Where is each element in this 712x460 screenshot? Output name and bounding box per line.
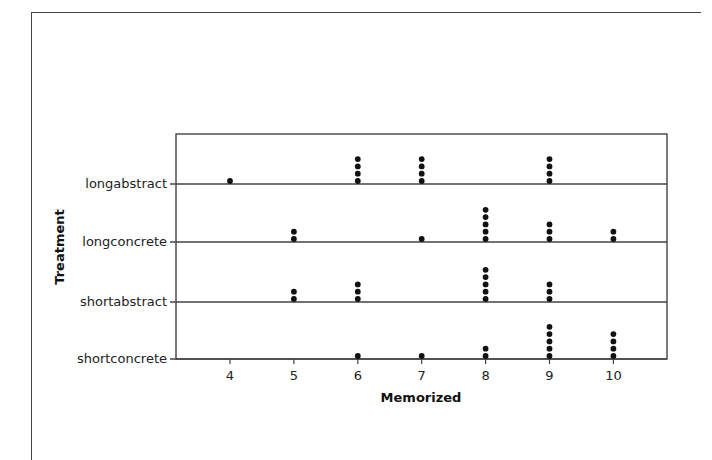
y-axis-category-labels: longabstractlongconcreteshortabstractsho… [77,176,167,366]
data-point [611,331,617,337]
data-point [355,156,361,162]
data-point [483,289,489,295]
data-point [547,289,553,295]
x-axis-ticks: 45678910 [226,359,622,383]
data-point [419,236,425,242]
data-point [355,178,361,184]
data-point [291,229,297,235]
data-point [291,236,297,242]
data-point [483,207,489,213]
x-tick-label: 10 [605,368,622,383]
data-point [355,282,361,288]
data-point [483,267,489,273]
data-point [547,164,553,170]
dot-plot: longabstractlongconcreteshortabstractsho… [0,0,712,460]
data-point [611,339,617,345]
x-tick-label: 4 [226,368,234,383]
data-point [611,229,617,235]
category-label-shortabstract: shortabstract [80,294,167,309]
category-label-shortconcrete: shortconcrete [77,351,167,366]
data-point [547,236,553,242]
category-label-longabstract: longabstract [85,176,167,191]
data-point [483,296,489,302]
x-tick-label: 5 [290,368,298,383]
data-point [355,164,361,170]
category-label-longconcrete: longconcrete [82,234,167,249]
x-tick-label: 7 [418,368,426,383]
data-point [611,346,617,352]
plot-area [170,134,667,359]
x-tick-label: 8 [481,368,489,383]
data-point [611,353,617,359]
data-point [547,346,553,352]
data-point [355,289,361,295]
data-point [547,178,553,184]
data-point [483,274,489,280]
data-point [547,171,553,177]
data-point [483,236,489,242]
data-point [419,178,425,184]
data-point [483,353,489,359]
data-point [547,156,553,162]
data-point [227,178,233,184]
data-point [483,282,489,288]
x-axis-title: Memorized [381,390,462,405]
data-point [547,339,553,345]
data-point [483,214,489,220]
data-point [547,324,553,330]
data-point [355,353,361,359]
data-point [547,296,553,302]
data-point [355,171,361,177]
data-point [611,236,617,242]
data-point [547,331,553,337]
data-point [419,156,425,162]
data-point [419,164,425,170]
x-tick-label: 6 [354,368,362,383]
data-point [547,353,553,359]
data-point [419,171,425,177]
data-point [547,222,553,228]
data-points [227,156,616,359]
data-point [355,296,361,302]
data-point [419,353,425,359]
data-point [547,282,553,288]
y-axis-title: Treatment [52,209,67,285]
data-point [483,229,489,235]
data-point [291,296,297,302]
data-point [483,222,489,228]
data-point [483,346,489,352]
data-point [547,229,553,235]
x-tick-label: 9 [545,368,553,383]
data-point [291,289,297,295]
